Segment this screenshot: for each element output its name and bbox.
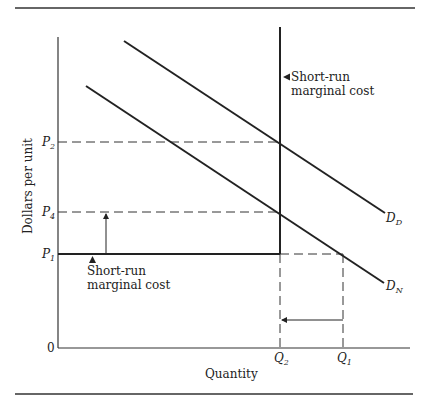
mc-horizontal-label-line2: marginal cost — [87, 278, 170, 292]
dd-label: DD — [385, 211, 403, 227]
p4-label: P4 — [41, 205, 55, 221]
p1-label: P1 — [41, 247, 55, 263]
p2-label: P2 — [41, 135, 55, 151]
mc-vertical-label-line1: Short-run — [291, 70, 350, 84]
dn-label: DN — [385, 279, 404, 295]
y-axis-title: Dollars per unit — [21, 138, 35, 234]
mc-horizontal-label-line1: Short-run — [87, 264, 146, 278]
diagram: Short-run marginal cost Short-run margin… — [0, 0, 430, 405]
demand-curve-dd — [124, 41, 385, 213]
q1-label: Q1 — [337, 351, 352, 367]
x-axis-title: Quantity — [205, 367, 258, 381]
origin-label: 0 — [47, 341, 55, 355]
mc-vertical-pointer-icon — [283, 74, 290, 81]
mc-horizontal-pointer-icon — [89, 256, 96, 263]
q2-label: Q2 — [274, 351, 289, 367]
mc-vertical-label-line2: marginal cost — [291, 84, 374, 98]
